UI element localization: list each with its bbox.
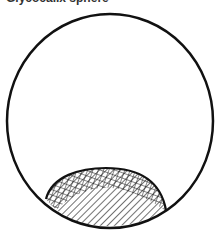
sphere-diagram <box>0 0 224 242</box>
